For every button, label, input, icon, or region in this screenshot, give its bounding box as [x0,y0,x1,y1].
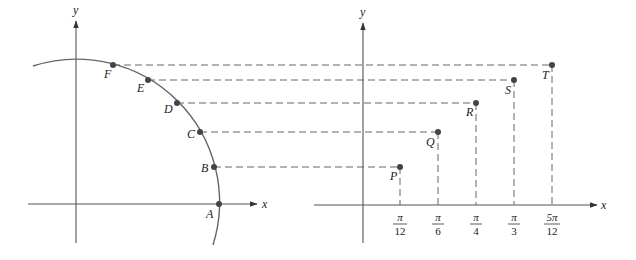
label-B: B [201,161,209,175]
label-Q: Q [426,135,435,149]
svg-text:12: 12 [547,225,558,237]
label-A: A [205,207,214,221]
left-y-axis-label: y [72,3,79,17]
svg-text:5π: 5π [546,211,558,223]
point-T [549,62,555,68]
point-B [211,164,217,170]
point-S [511,77,517,83]
svg-text:4: 4 [473,225,479,237]
unit-circle-arc [33,59,220,245]
label-P: P [389,169,398,183]
label-C: C [187,127,196,141]
point-D [174,100,180,106]
svg-text:3: 3 [511,225,517,237]
svg-text:π: π [473,211,479,223]
unit-circle-to-sine-graph-diagram: x y A B C D E F x y [0,0,636,260]
tick-label-pi-6: π 6 [432,211,444,237]
tick-label-pi-12: π 12 [393,211,407,237]
tick-label-5pi-12: 5π 12 [544,211,560,237]
svg-text:12: 12 [395,225,406,237]
svg-text:π: π [511,211,517,223]
right-panel-sine-graph: x y P Q R S T π 12 π 6 π [314,5,607,243]
svg-text:π: π [397,211,403,223]
point-E [145,77,151,83]
right-y-axis-label: y [359,5,366,19]
right-x-axis-label: x [600,198,607,212]
label-D: D [163,102,173,116]
label-S: S [505,83,511,97]
label-T: T [542,68,550,82]
label-R: R [465,105,474,119]
label-E: E [136,81,145,95]
left-x-axis-label: x [261,197,268,211]
tick-label-pi-4: π 4 [470,211,482,237]
point-P [397,164,403,170]
point-A [216,201,222,207]
svg-text:π: π [435,211,441,223]
point-Q [435,129,441,135]
label-F: F [103,67,112,81]
svg-text:6: 6 [435,225,441,237]
left-panel-unit-circle: x y A B C D E F [28,3,552,245]
point-R [473,100,479,106]
tick-label-pi-3: π 3 [508,211,520,237]
point-C [197,129,203,135]
